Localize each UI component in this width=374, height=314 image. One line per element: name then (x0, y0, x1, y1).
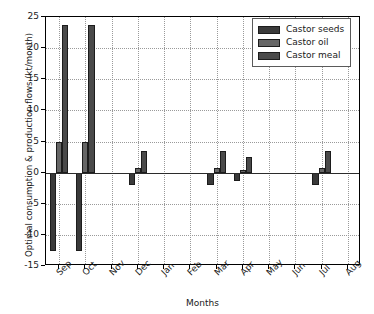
legend: Castor seedsCastor oilCastor meal (252, 18, 351, 67)
bar (207, 173, 213, 185)
bar (141, 151, 147, 173)
legend-swatch (258, 39, 280, 47)
y-axis-title: Optimal consumption & production flows (… (24, 30, 34, 260)
bar (88, 25, 94, 173)
y-tick-mark (41, 265, 45, 266)
bar (129, 173, 135, 185)
bar (246, 157, 252, 173)
bar (62, 25, 68, 173)
legend-label: Castor meal (286, 51, 340, 60)
legend-swatch (258, 52, 280, 60)
legend-item: Castor meal (258, 49, 344, 62)
gridline-vertical (243, 17, 244, 264)
gridline-horizontal (46, 235, 359, 236)
chart-figure: -15-10-50510152025 Optimal consumption &… (0, 0, 374, 314)
gridline-vertical (112, 17, 113, 264)
bar (76, 173, 82, 251)
bar (325, 151, 331, 173)
legend-label: Castor seeds (286, 25, 344, 34)
legend-swatch (258, 26, 280, 34)
legend-item: Castor oil (258, 36, 344, 49)
bar (234, 173, 240, 182)
gridline-vertical (190, 17, 191, 264)
y-tick-label: 25 (0, 12, 39, 21)
zero-baseline (46, 173, 359, 174)
gridline-vertical (138, 17, 139, 264)
legend-item: Castor seeds (258, 23, 344, 36)
bar (220, 151, 226, 173)
bar (312, 173, 318, 185)
gridline-vertical (59, 17, 60, 264)
y-tick-label: -15 (0, 261, 39, 270)
gridline-vertical (164, 17, 165, 264)
legend-label: Castor oil (286, 38, 329, 47)
bar (50, 173, 56, 251)
gridline-vertical (85, 17, 86, 264)
gridline-horizontal (46, 204, 359, 205)
x-axis-title: Months (45, 298, 360, 308)
gridline-vertical (217, 17, 218, 264)
